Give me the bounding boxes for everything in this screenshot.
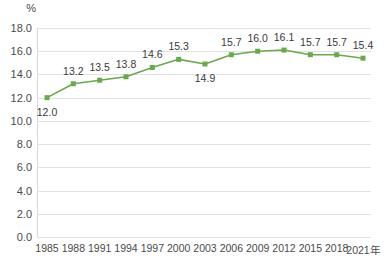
data-point-marker — [255, 49, 260, 54]
y-axis-tick-label: 0.0 — [17, 231, 37, 243]
x-axis-tick-label: 2000 — [167, 242, 190, 254]
y-axis-tick-label: 2.0 — [17, 208, 37, 220]
x-axis-tick-label: 2009 — [246, 242, 269, 254]
y-axis-tick-label: 12.0 — [11, 92, 37, 104]
y-axis-tick-label: 8.0 — [17, 138, 37, 150]
data-point-marker — [361, 56, 366, 61]
data-point-marker — [308, 52, 313, 57]
y-axis-tick-label: 18.0 — [11, 22, 37, 34]
x-axis-tick-label: 1985 — [35, 242, 58, 254]
data-point-marker — [150, 65, 155, 70]
x-axis-tick-label: 2021年 — [346, 242, 379, 257]
x-axis-tick-label: 2003 — [193, 242, 216, 254]
plot-area: 0.02.04.06.08.010.012.014.016.018.0 1985… — [37, 28, 371, 237]
x-axis-tick-label: 2018 — [325, 242, 348, 254]
x-axis-tick-label: 1991 — [88, 242, 111, 254]
x-axis-tick-label: 1997 — [141, 242, 164, 254]
y-axis-tick-label: 4.0 — [17, 185, 37, 197]
x-axis-tick-label: 1988 — [62, 242, 85, 254]
data-point-marker — [97, 78, 102, 83]
data-point-marker — [203, 61, 208, 66]
data-point-marker — [282, 48, 287, 53]
data-point-marker — [229, 52, 234, 57]
line-chart: % 0.02.04.06.08.010.012.014.016.018.0 19… — [0, 0, 388, 264]
data-point-marker — [45, 95, 50, 100]
data-series-line — [37, 28, 371, 237]
gridline — [37, 237, 371, 238]
series-polyline — [47, 50, 363, 98]
y-axis-tick-label: 14.0 — [11, 68, 37, 80]
x-axis-tick-label: 1994 — [114, 242, 137, 254]
data-point-marker — [124, 74, 129, 79]
y-axis-tick-label: 6.0 — [17, 161, 37, 173]
data-point-marker — [334, 52, 339, 57]
y-axis-unit-label: % — [26, 2, 36, 14]
data-point-marker — [176, 57, 181, 62]
x-axis-tick-label: 2006 — [220, 242, 243, 254]
x-axis-tick-label: 2012 — [272, 242, 295, 254]
data-point-marker — [71, 81, 76, 86]
x-axis-tick-label: 2015 — [299, 242, 322, 254]
y-axis-tick-label: 16.0 — [11, 45, 37, 57]
y-axis-tick-label: 10.0 — [11, 115, 37, 127]
